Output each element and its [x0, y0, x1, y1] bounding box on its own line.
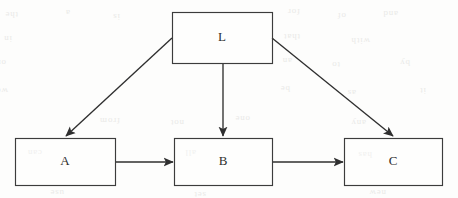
- dag-figure: LABC: [0, 0, 458, 198]
- edge-l-to-a: [66, 38, 172, 136]
- node-a[interactable]: A: [16, 139, 116, 186]
- node-label-l: L: [218, 29, 226, 44]
- node-label-c: C: [389, 153, 398, 168]
- nodes-group: LABC: [16, 13, 443, 186]
- node-b[interactable]: B: [175, 139, 273, 186]
- node-label-b: B: [219, 153, 228, 168]
- node-c[interactable]: C: [345, 139, 443, 186]
- diagram-canvas: theaisforofandinthatwithonantobywebeasit…: [0, 0, 458, 198]
- edge-l-to-c: [272, 38, 393, 136]
- node-label-a: A: [60, 153, 70, 168]
- node-l[interactable]: L: [173, 13, 273, 64]
